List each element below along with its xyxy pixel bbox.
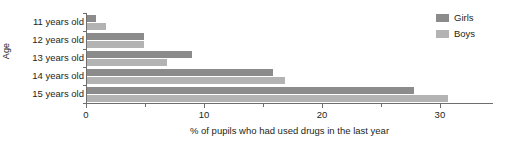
y-axis-tick-labels: 11 years old 12 years old 13 years old 1… — [14, 0, 84, 149]
y-axis-tick — [83, 85, 86, 86]
y-axis-tick — [83, 13, 86, 14]
y-axis-tick-label: 12 years old — [18, 35, 84, 45]
x-axis-minor-tick — [381, 104, 382, 107]
legend-label-boys: Boys — [454, 29, 475, 39]
x-axis-tick-label: 10 — [189, 109, 219, 120]
bar-boys-5 — [87, 95, 448, 102]
bar-chart: Age 11 years old 12 years old 13 years o… — [0, 0, 508, 149]
y-axis-tick-label: 14 years old — [18, 71, 84, 81]
y-axis-tick-label: 15 years old — [18, 89, 84, 99]
y-axis-tick — [83, 67, 86, 68]
bar-girls-4 — [87, 69, 273, 76]
legend-item-girls: Girls — [436, 11, 500, 24]
bar-girls-5 — [87, 87, 414, 94]
x-axis-tick-label: 0 — [71, 109, 101, 120]
x-axis-minor-tick — [145, 104, 146, 107]
bar-boys-3 — [87, 59, 167, 66]
x-axis-tick-label: 20 — [307, 109, 337, 120]
bar-girls-2 — [87, 33, 144, 40]
y-axis-title: Age — [1, 31, 11, 71]
x-axis-minor-tick — [263, 104, 264, 107]
x-axis-tick-label: 30 — [425, 109, 455, 120]
x-axis-title: % of pupils who had used drugs in the la… — [86, 125, 493, 136]
bar-girls-3 — [87, 51, 192, 58]
bar-boys-4 — [87, 77, 285, 84]
x-axis-major-tick — [86, 104, 87, 108]
x-axis-major-tick — [440, 104, 441, 108]
y-axis-tick-label: 13 years old — [18, 53, 84, 63]
y-axis-tick — [83, 31, 86, 32]
x-axis-major-tick — [322, 104, 323, 108]
bar-girls-1 — [87, 15, 96, 22]
legend-label-girls: Girls — [454, 13, 474, 23]
legend-swatch-icon-boys — [436, 30, 449, 38]
y-axis-tick-label: 11 years old — [18, 17, 84, 27]
y-axis-tick — [83, 49, 86, 50]
x-axis-line — [86, 103, 493, 104]
legend: Girls Boys — [436, 11, 500, 43]
bar-boys-1 — [87, 23, 106, 30]
bar-boys-2 — [87, 41, 144, 48]
x-axis-major-tick — [204, 104, 205, 108]
legend-item-boys: Boys — [436, 27, 500, 40]
legend-swatch-icon-girls — [436, 14, 449, 22]
plot-area: 0102030 — [86, 13, 493, 103]
